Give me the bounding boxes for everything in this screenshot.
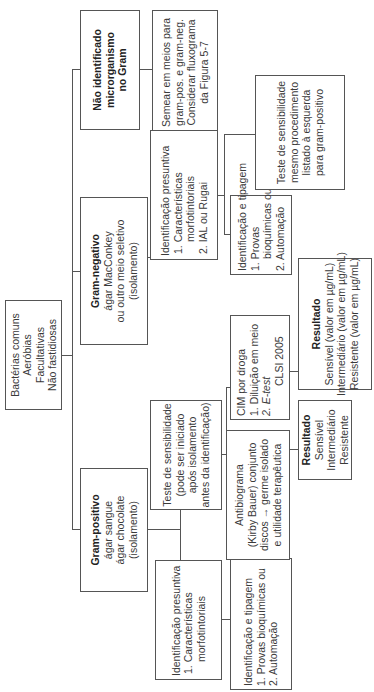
sensitivity-line: para gram-positivo (313, 89, 326, 176)
action-line: Semear em meios para (160, 18, 173, 127)
result-line: Sensível (valor em µg/mL) (323, 263, 336, 386)
connector-root-trunk (62, 355, 72, 356)
flowchart: Bactérias comuns Aeróbias Facultativas N… (0, 0, 374, 692)
sensitivity-line: listado à esquerda (300, 90, 313, 176)
mic-line: CIM por droga (235, 349, 248, 416)
root-line: Bactérias comuns (9, 313, 22, 396)
presumptive-line: 1. Características (172, 172, 185, 256)
presumptive-line: 1. Características (182, 592, 195, 676)
id-typing-line: Identificação e tipagem (242, 578, 255, 686)
gram-positive-line: ágar chocolate (114, 496, 127, 565)
sensitivity-line: antes da identificação) (199, 402, 212, 507)
result-line: Resistente (valor em µg/mL) (348, 258, 361, 390)
gram-negative-id-typing-box: Identificação e tipagem 1. Provas bioquí… (230, 195, 292, 275)
connector-mic-to-result (290, 371, 298, 372)
gram-negative-title: Gram-negativo (89, 234, 102, 308)
id-typing-line: 1. Provas (249, 227, 262, 271)
gram-positive-line: (isolamento) (127, 501, 140, 559)
gram-positive-id-typing-box: Identificação e tipagem 1. Provas bioquí… (230, 558, 292, 690)
mic-line: 2. E-test (260, 377, 273, 416)
id-typing-line: bioquímicas ou (261, 188, 274, 271)
unidentified-action-box: Semear em meios para gram-pos. e gram-ne… (152, 10, 218, 135)
connector-to-neg-sensitivity (224, 134, 255, 135)
connector-gram-pos-down (148, 529, 180, 530)
gram-negative-box: Gram-negativo ágar MacConkey ou outro me… (80, 197, 148, 345)
root-line: Não fastidiosas (46, 319, 59, 391)
connector-neg-bar (224, 135, 225, 235)
root-line: Facultativas (34, 327, 47, 383)
id-typing-line: 1. Provas bioquímicas ou (255, 568, 268, 686)
unidentified-box: Não identificado microrganismo no Gram (80, 10, 140, 130)
gram-positive-sensitivity-box: Teste de sensibilidade (pode ser iniciad… (150, 400, 222, 510)
gram-negative-presumptive-id-box: Identificação presuntiva 1. Característi… (150, 130, 218, 260)
root-box: Bactérias comuns Aeróbias Facultativas N… (5, 300, 62, 410)
unidentified-title: Não identificado (91, 29, 104, 111)
gram-negative-line: ágar MacConkey (102, 231, 115, 310)
connector-to-gram-pos (72, 529, 80, 530)
antibiogram-line: (Kirby Bauer) conjunto (246, 443, 259, 547)
unidentified-title: no Gram (116, 48, 129, 91)
id-typing-line: 2. Automação (274, 207, 287, 271)
result-title: Resultado (310, 299, 323, 350)
connector-unidentified-to-action (140, 69, 152, 70)
gram-positive-line: ágar sangue (102, 501, 115, 559)
sensitivity-line: após isolamento (186, 417, 199, 493)
sensitivity-line: Teste de sensibilidade (161, 403, 174, 506)
sensitivity-line: mesmo procedimento (288, 82, 301, 183)
connector-level1-bar (72, 70, 73, 530)
connector-to-gram-neg (72, 271, 80, 272)
presumptive-line: Identificação presuntiva (170, 566, 183, 676)
id-typing-line: Identificação e tipagem (236, 163, 249, 271)
presumptive-line: morfotintoriais (184, 176, 197, 256)
result-line: Intermediário (325, 409, 338, 470)
mic-box: CIM por droga 1. Diluição em meio 2. E-t… (230, 315, 290, 420)
connector-antibiogram-to-result (290, 449, 298, 450)
antibiogram-result-box: Resultado Sensível Intermediário Resiste… (298, 400, 352, 480)
antibiogram-line: discos → germe isolado (258, 439, 271, 551)
presumptive-line: Identificação presuntiva (159, 146, 172, 256)
presumptive-line: morfotintoriais (195, 596, 208, 676)
gram-negative-line: ou outro meio seletivo (114, 220, 127, 323)
gram-positive-presumptive-id-box: Identificação presuntiva 1. Característi… (155, 560, 222, 680)
root-line: Aeróbias (21, 334, 34, 375)
presumptive-line: 2. IAL ou Rugai (197, 182, 210, 256)
action-line: Considerar fluxograma (185, 19, 198, 125)
gram-positive-title: Gram-positivo (89, 494, 102, 565)
id-typing-line: 2. Automação (267, 622, 280, 686)
mic-line: CLSI 2005 (273, 336, 286, 416)
mic-result-box: Resultado Sensível (valor em µg/mL) Inte… (298, 258, 372, 390)
sensitivity-line: (pode ser iniciado (174, 414, 187, 497)
result-line: Intermediário (valor em µg/mL) (335, 252, 348, 396)
gram-negative-sensitivity-box: Teste de sensibilidade mesmo procediment… (255, 75, 345, 190)
gram-negative-line: (isolamento) (127, 242, 140, 300)
unidentified-title: microrganismo (104, 32, 117, 108)
action-line: gram-pos. e gram-neg. (173, 19, 186, 126)
mic-line: 1. Diluição em meio (248, 324, 261, 416)
action-line: da Figura 5-7 (198, 41, 211, 103)
antibiogram-box: Antibiograma (Kirby Bauer) conjunto disc… (226, 430, 290, 560)
result-line: Resistente (338, 415, 351, 465)
result-line: Sensível (313, 420, 326, 460)
antibiogram-line: e utilidade terapêutica (271, 444, 284, 547)
connector-to-unidentified (72, 69, 80, 70)
gram-positive-box: Gram-positivo ágar sangue ágar chocolate… (80, 468, 148, 592)
connector-pos-presumptive-to-typing (222, 619, 230, 620)
result-title: Resultado (300, 415, 313, 466)
antibiogram-line: Antibiograma (233, 464, 246, 526)
sensitivity-line: Teste de sensibilidade (275, 81, 288, 184)
